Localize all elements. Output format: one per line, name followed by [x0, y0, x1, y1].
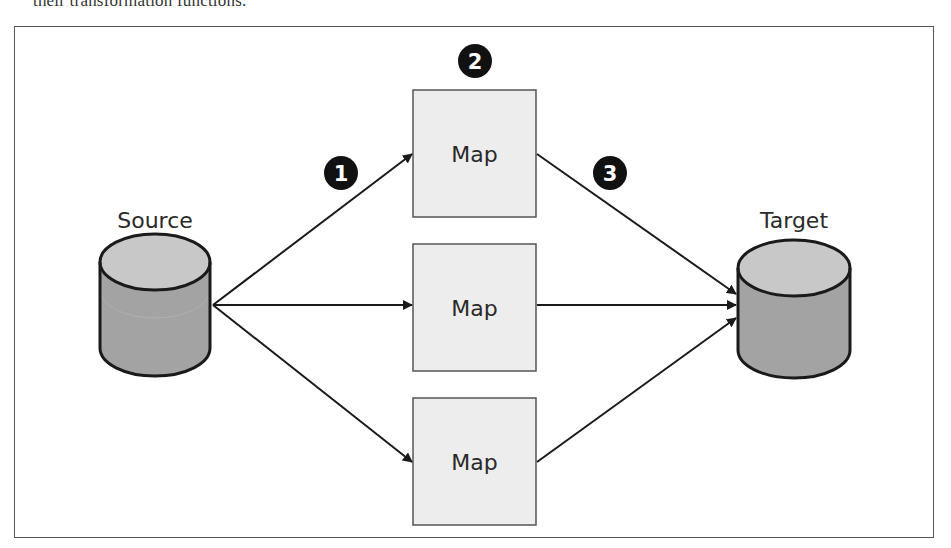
target-database-icon	[738, 240, 850, 378]
callout-number: 3	[603, 162, 618, 186]
callout-number: 1	[334, 162, 349, 186]
map-box-1: Map	[413, 90, 536, 217]
source-label: Source	[117, 208, 193, 233]
arrow-icon	[537, 154, 736, 294]
map-box-2: Map	[413, 244, 536, 371]
callout-2: 2	[458, 44, 492, 78]
map-box-3: Map	[413, 398, 536, 525]
callout-1: 1	[324, 156, 358, 190]
arrow-icon	[213, 154, 412, 305]
target-label: Target	[759, 208, 828, 233]
arrows-maps-to-target	[537, 154, 736, 462]
dataflow-diagram: Source Target Map Map Map 1 2	[0, 0, 951, 548]
callout-3: 3	[593, 156, 627, 190]
map-box-label: Map	[451, 296, 497, 321]
arrow-icon	[537, 318, 736, 462]
map-box-label: Map	[451, 142, 497, 167]
map-box-label: Map	[451, 450, 497, 475]
arrows-source-to-maps	[213, 154, 412, 462]
source-database-icon	[100, 234, 210, 376]
arrow-icon	[213, 305, 412, 462]
callout-number: 2	[468, 50, 483, 74]
